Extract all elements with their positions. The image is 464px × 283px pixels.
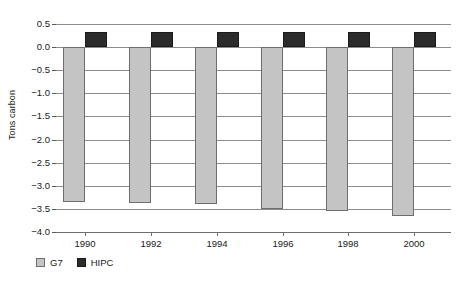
bar-g7-1994 <box>195 47 217 204</box>
y-tick-label: −3.0 <box>10 181 50 191</box>
x-tick-label-1998: 1998 <box>325 238 371 249</box>
y-tick-label: −0.5 <box>10 65 50 75</box>
x-tick-mark <box>283 232 284 236</box>
y-tick-label: 0.5 <box>10 19 50 29</box>
x-tick-label-1994: 1994 <box>194 238 240 249</box>
x-tick-mark <box>217 232 218 236</box>
bar-hipc-1990 <box>85 32 107 47</box>
legend-item-hipc: HIPC <box>77 257 114 268</box>
legend-swatch-g7-icon <box>36 258 45 267</box>
legend-swatch-hipc-icon <box>77 258 86 267</box>
x-tick-label-2000: 2000 <box>391 238 437 249</box>
bar-g7-1992 <box>129 47 151 203</box>
x-axis-line <box>56 232 451 233</box>
bar-g7-1998 <box>326 47 348 211</box>
plot-area <box>56 24 451 232</box>
x-tick-label-1996: 1996 <box>260 238 306 249</box>
y-tick-label: 0.0 <box>10 42 50 52</box>
bar-hipc-1994 <box>217 32 239 47</box>
y-tick-label: −2.0 <box>10 135 50 145</box>
bar-g7-2000 <box>392 47 414 216</box>
x-tick-mark <box>348 232 349 236</box>
legend-label: HIPC <box>91 257 114 268</box>
y-tick-label: −1.0 <box>10 88 50 98</box>
bar-hipc-1998 <box>348 32 370 47</box>
bar-chart-figure: Tons carbon 0.50.0−0.5−1.0−1.5−2.0−2.5−3… <box>0 0 464 283</box>
x-tick-mark <box>414 232 415 236</box>
x-tick-mark <box>85 232 86 236</box>
bar-hipc-2000 <box>414 32 436 47</box>
bar-hipc-1996 <box>283 32 305 47</box>
y-tick-label: −2.5 <box>10 158 50 168</box>
legend-item-g7: G7 <box>36 257 63 268</box>
x-tick-label-1992: 1992 <box>128 238 174 249</box>
bar-g7-1990 <box>63 47 85 202</box>
x-tick-mark <box>151 232 152 236</box>
y-tick-label: −4.0 <box>10 227 50 237</box>
legend-label: G7 <box>50 257 63 268</box>
gridline <box>56 24 451 25</box>
y-tick-label: −1.5 <box>10 111 50 121</box>
bar-hipc-1992 <box>151 32 173 47</box>
y-tick-label: −3.5 <box>10 204 50 214</box>
bar-g7-1996 <box>261 47 283 209</box>
x-tick-label-1990: 1990 <box>62 238 108 249</box>
chart-legend: G7HIPC <box>36 257 113 268</box>
